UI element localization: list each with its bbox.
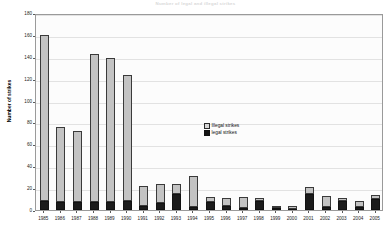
chart-container: Number of legal and illegal strikes 0204… [0, 0, 391, 240]
x-tick-mark [110, 211, 111, 213]
x-tick-mark [43, 211, 44, 213]
bar-segment-illegal[interactable] [172, 184, 181, 194]
y-tick-label: 120 [24, 77, 32, 82]
bar-segment-illegal[interactable] [222, 198, 231, 206]
y-axis-title: Number of strikes [6, 61, 12, 141]
bar-segment-legal[interactable] [189, 207, 198, 210]
bar-segment-legal[interactable] [90, 202, 99, 210]
x-tick-mark [325, 211, 326, 213]
bar-segment-legal[interactable] [272, 208, 281, 210]
x-tick-mark [192, 211, 193, 213]
x-tick-mark [242, 211, 243, 213]
bar-segment-legal[interactable] [156, 203, 165, 210]
plot-area: Illegal strikes legal strikes [35, 14, 383, 211]
x-tick-mark [358, 211, 359, 213]
bar-group[interactable] [371, 13, 380, 210]
bar-group[interactable] [222, 13, 231, 210]
x-tick-mark [126, 211, 127, 213]
y-tick-label: 20 [27, 187, 32, 192]
y-tick-label: 100 [24, 99, 32, 104]
bar-segment-legal[interactable] [172, 194, 181, 210]
bar-segment-legal[interactable] [206, 202, 215, 210]
legend-swatch-illegal-icon [204, 123, 210, 129]
bar-segment-illegal[interactable] [239, 197, 248, 208]
bar-segment-legal[interactable] [322, 207, 331, 210]
x-tick-mark [176, 211, 177, 213]
bar-segment-legal[interactable] [123, 201, 132, 210]
bar-group[interactable] [338, 13, 347, 210]
bar-segment-legal[interactable] [355, 207, 364, 210]
bar-segment-illegal[interactable] [371, 195, 380, 199]
y-tick-label: 160 [24, 34, 32, 39]
bar-segment-illegal[interactable] [338, 198, 347, 201]
bar-segment-legal[interactable] [139, 206, 148, 210]
bar-segment-legal[interactable] [255, 201, 264, 210]
x-tick-mark [76, 211, 77, 213]
x-tick-mark [308, 211, 309, 213]
bar-segment-illegal[interactable] [73, 131, 82, 202]
bar-segment-legal[interactable] [338, 201, 347, 210]
x-axis: 1985198619871988198919901991199219931994… [35, 211, 383, 237]
bar-group[interactable] [139, 13, 148, 210]
bar-group[interactable] [305, 13, 314, 210]
y-tick-label: 180 [24, 12, 32, 17]
y-tick-label: 80 [27, 121, 32, 126]
bar-segment-legal[interactable] [371, 199, 380, 210]
legend-swatch-legal-icon [204, 130, 210, 136]
legend-item-legal: legal strikes [204, 130, 239, 137]
bar-segment-illegal[interactable] [206, 197, 215, 202]
bar-segment-legal[interactable] [73, 202, 82, 210]
x-tick-label: 2005 [364, 216, 386, 221]
bar-segment-legal[interactable] [106, 202, 115, 210]
chart-legend: Illegal strikes legal strikes [204, 123, 239, 136]
bar-segment-legal[interactable] [56, 202, 65, 210]
x-tick-mark [259, 211, 260, 213]
bar-group[interactable] [156, 13, 165, 210]
x-tick-mark [342, 211, 343, 213]
bar-segment-illegal[interactable] [355, 201, 364, 206]
x-tick-mark [292, 211, 293, 213]
bar-group[interactable] [123, 13, 132, 210]
bar-segment-illegal[interactable] [90, 54, 99, 203]
chart-title: Number of legal and illegal strikes [0, 1, 391, 6]
bar-segment-legal[interactable] [40, 201, 49, 210]
bar-group[interactable] [272, 13, 281, 210]
bar-group[interactable] [206, 13, 215, 210]
bar-group[interactable] [355, 13, 364, 210]
bar-group[interactable] [322, 13, 331, 210]
y-tick-label: 60 [27, 143, 32, 148]
y-tick-label: 40 [27, 165, 32, 170]
bar-segment-legal[interactable] [305, 194, 314, 210]
bar-segment-illegal[interactable] [255, 198, 264, 201]
x-tick-mark [159, 211, 160, 213]
bar-group[interactable] [106, 13, 115, 210]
bar-series-group [36, 15, 382, 210]
bar-group[interactable] [255, 13, 264, 210]
bar-segment-illegal[interactable] [272, 206, 281, 208]
x-tick-mark [143, 211, 144, 213]
bar-segment-illegal[interactable] [106, 58, 115, 202]
y-tick-label: 0 [29, 209, 32, 214]
bar-group[interactable] [239, 13, 248, 210]
legend-label-legal: legal strikes [212, 130, 237, 137]
x-tick-mark [275, 211, 276, 213]
bar-segment-illegal[interactable] [56, 127, 65, 203]
bar-group[interactable] [288, 13, 297, 210]
bar-group[interactable] [172, 13, 181, 210]
bar-segment-illegal[interactable] [156, 184, 165, 204]
x-tick-mark [226, 211, 227, 213]
bar-group[interactable] [40, 13, 49, 210]
bar-segment-illegal[interactable] [288, 206, 297, 209]
bar-group[interactable] [73, 13, 82, 210]
bar-segment-illegal[interactable] [40, 35, 49, 201]
bar-segment-illegal[interactable] [305, 187, 314, 194]
bar-group[interactable] [90, 13, 99, 210]
bar-segment-legal[interactable] [222, 206, 231, 210]
bar-segment-illegal[interactable] [123, 75, 132, 201]
bar-group[interactable] [189, 13, 198, 210]
bar-group[interactable] [56, 13, 65, 210]
bar-segment-illegal[interactable] [322, 196, 331, 207]
bar-segment-illegal[interactable] [189, 176, 198, 207]
bar-segment-illegal[interactable] [139, 186, 148, 206]
bar-segment-legal[interactable] [239, 208, 248, 210]
